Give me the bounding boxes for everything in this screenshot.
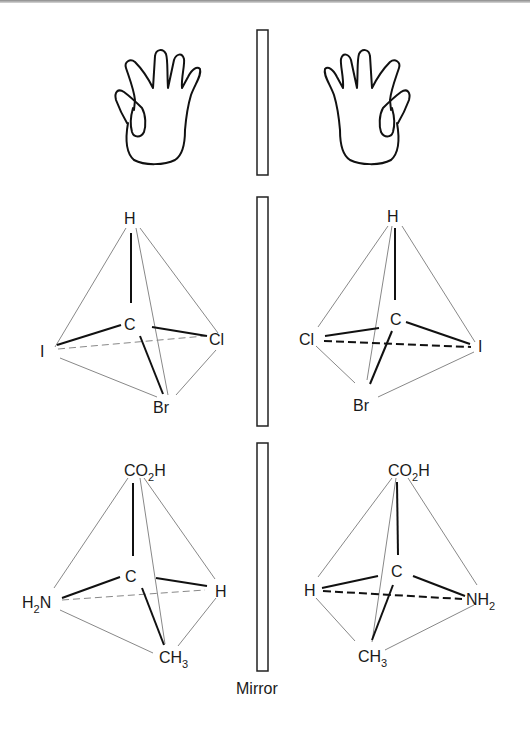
atom-label: Br	[353, 397, 370, 414]
subscript: 3	[381, 657, 387, 669]
group-label-part: NH	[466, 591, 489, 608]
atom-label: H	[304, 582, 316, 599]
group-label-part: CO	[388, 462, 412, 479]
atom-label: H	[124, 210, 136, 227]
atom-label: Cl	[299, 331, 314, 348]
subscript: 3	[182, 658, 188, 670]
tetrahedron-cbrcli-right: H C Cl I Br	[299, 208, 482, 414]
atom-label: I	[40, 343, 44, 360]
atom-label: C	[125, 568, 137, 585]
atom-label: I	[478, 338, 482, 355]
group-label-part: H	[22, 594, 34, 611]
mirror-bar-bottom	[257, 443, 268, 671]
group-label: CH3	[159, 649, 188, 670]
group-label-part: CH	[358, 648, 381, 665]
atom-label: C	[124, 316, 136, 333]
tetrahedron-alanine-right: CO2H C H NH2 CH3	[304, 462, 495, 669]
left-hand-icon	[115, 50, 200, 164]
group-label-part: H	[154, 462, 166, 479]
subscript: 2	[489, 600, 495, 612]
atom-label: C	[391, 563, 403, 580]
mirror-bar-top	[257, 30, 268, 175]
group-label-part: H	[418, 462, 430, 479]
group-label: H2N	[22, 594, 51, 615]
group-label: CH3	[358, 648, 387, 669]
right-hand-icon	[325, 50, 410, 164]
mirror-label: Mirror	[236, 680, 278, 698]
atom-label: Br	[153, 399, 170, 416]
atom-label: Cl	[209, 331, 224, 348]
atom-label: H	[387, 208, 399, 225]
atom-label: H	[215, 583, 227, 600]
group-label: NH2	[466, 591, 495, 612]
group-label-part: N	[40, 594, 52, 611]
mirror-bars	[257, 30, 268, 671]
tetrahedron-cbrcli-left: H C I Cl Br	[40, 210, 224, 416]
chirality-figure: H C I Cl Br H C Cl I Br	[0, 0, 530, 734]
tetrahedron-alanine-left: CO2H C H2N H CH3	[22, 462, 227, 670]
atom-label: C	[390, 311, 402, 328]
group-label-part: CO	[124, 462, 148, 479]
group-label-part: CH	[159, 649, 182, 666]
mirror-bar-middle	[257, 197, 268, 426]
